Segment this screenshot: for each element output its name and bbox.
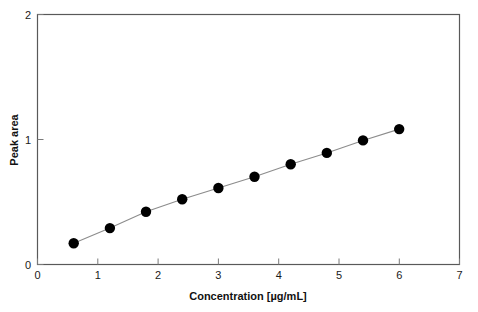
data-point <box>213 183 223 193</box>
x-tick-label: 4 <box>276 269 282 281</box>
x-tick-label: 0 <box>34 269 40 281</box>
scatter-plot: 0 1 2 3 4 5 6 7 0 1 2 Concentration [µg/… <box>0 0 478 312</box>
y-tick-labels: 0 1 2 <box>25 9 31 271</box>
x-tick-label: 6 <box>396 269 402 281</box>
y-tick-label: 0 <box>25 259 31 271</box>
x-tick-label: 1 <box>95 269 101 281</box>
y-tick-label: 2 <box>25 9 31 21</box>
plot-frame <box>38 15 460 265</box>
x-axis-title: Concentration [µg/mL] <box>189 290 307 302</box>
y-tick-label: 1 <box>25 134 31 146</box>
data-point <box>105 223 115 233</box>
data-point <box>358 135 368 145</box>
data-point <box>69 238 79 248</box>
x-tick-label: 3 <box>215 269 221 281</box>
x-tick-labels: 0 1 2 3 4 5 6 7 <box>34 269 462 281</box>
y-axis-title: Peak area <box>8 113 20 165</box>
chart-container: 0 1 2 3 4 5 6 7 0 1 2 Concentration [µg/… <box>0 0 478 312</box>
data-point <box>141 207 151 217</box>
x-tick-label: 2 <box>155 269 161 281</box>
data-point <box>249 172 259 182</box>
data-point <box>394 124 404 134</box>
data-point <box>177 194 187 204</box>
data-point <box>322 148 332 158</box>
x-tick-label: 5 <box>336 269 342 281</box>
x-tick-label: 7 <box>456 269 462 281</box>
data-point <box>286 159 296 169</box>
